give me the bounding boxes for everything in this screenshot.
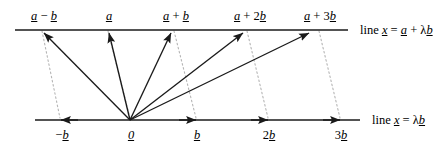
- vector-b-glyph: b: [194, 128, 200, 142]
- vector-b-glyph: b: [330, 9, 336, 23]
- vector-b-glyph: b: [51, 9, 57, 23]
- top-line-equation-label: line x = a + λb: [360, 24, 433, 37]
- line-word: line: [372, 113, 394, 127]
- minus-sign: −: [55, 128, 62, 142]
- vector-b-glyph: b: [341, 128, 347, 142]
- vector-a-minus-b: [44, 33, 130, 120]
- vector-b-glyph: b: [426, 23, 432, 37]
- dotted-connector-a-minus-b: [42, 31, 60, 118]
- vector-a: [109, 33, 130, 120]
- vector-b-glyph: b: [269, 128, 275, 142]
- operator-plus: +: [169, 9, 182, 23]
- operator-plus-three: + 3: [310, 9, 330, 23]
- vector-b-glyph: b: [183, 9, 189, 23]
- top-point-label-a-plus-b: a + b: [163, 10, 189, 23]
- vector-a-plus-2b: [130, 33, 243, 120]
- dotted-connector-a-plus-3b: [319, 31, 340, 118]
- equals-sign: =: [387, 23, 400, 37]
- vector-a-plus-3b: [130, 33, 309, 120]
- bottom-point-label-2b: 2b: [263, 129, 276, 142]
- position-vectors: [44, 33, 309, 120]
- vector-b-glyph: b: [62, 128, 68, 142]
- bottom-line-equation-label: line x = λb: [372, 114, 425, 127]
- operator-plus-two: + 2: [240, 9, 260, 23]
- vector-b-glyph: b: [260, 9, 266, 23]
- dotted-connectors: [42, 31, 340, 118]
- top-point-label-a-plus-3b: a + 3b: [304, 10, 336, 23]
- vector-a-glyph: a: [106, 9, 112, 23]
- top-point-label-a-plus-2b: a + 2b: [234, 10, 266, 23]
- vector-a-plus-b: [130, 33, 171, 120]
- bottom-point-label-3b: 3b: [335, 129, 348, 142]
- dotted-connector-a-plus-2b: [247, 31, 268, 118]
- operator-minus: −: [37, 9, 50, 23]
- vector-line-diagram: a − b a a + b a + 2b a + 3b line x = a +…: [0, 0, 438, 151]
- bottom-point-label-b: b: [194, 129, 200, 142]
- vector-zero-glyph: 0: [128, 128, 134, 142]
- bottom-point-label-origin: 0: [128, 129, 134, 142]
- dotted-connector-a-plus-b: [174, 31, 196, 118]
- top-point-label-a-minus-b: a − b: [31, 10, 57, 23]
- line-word: line: [360, 23, 382, 37]
- vector-b-glyph: b: [419, 113, 425, 127]
- equals-sign: =: [399, 113, 412, 127]
- operator-plus: +: [407, 23, 420, 37]
- top-point-label-a: a: [106, 10, 112, 23]
- bottom-point-label-minus-b: −b: [55, 129, 68, 142]
